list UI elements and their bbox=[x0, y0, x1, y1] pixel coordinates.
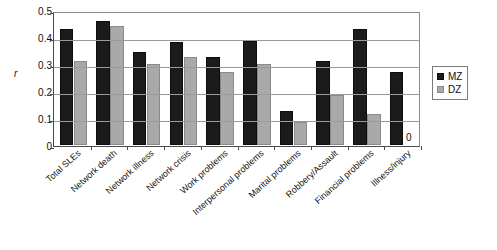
x-tickmark bbox=[421, 146, 422, 150]
bar-mz bbox=[206, 57, 220, 145]
chart-legend: MZDZ bbox=[432, 66, 468, 100]
bar-group bbox=[128, 13, 165, 145]
gridline bbox=[54, 40, 419, 41]
bar-group bbox=[275, 13, 312, 145]
bar-chart: r 0.50.40.30.20.10 0 Total SLEsNetwork d… bbox=[0, 0, 497, 250]
bar-dz bbox=[184, 57, 198, 145]
y-tick-label: 0.2 bbox=[26, 88, 52, 98]
gridline bbox=[54, 67, 419, 68]
bar-mz bbox=[390, 72, 404, 145]
y-tickmark bbox=[50, 40, 54, 41]
bar-mz bbox=[353, 29, 367, 145]
bar-group bbox=[349, 13, 386, 145]
y-tickmark bbox=[50, 13, 54, 14]
bar-dz bbox=[220, 72, 234, 145]
legend-label: DZ bbox=[448, 84, 461, 95]
y-tick-label: 0.4 bbox=[26, 34, 52, 44]
y-tickmark bbox=[50, 121, 54, 122]
bars-layer: 0 bbox=[55, 13, 418, 145]
y-tick-label: 0.1 bbox=[26, 115, 52, 125]
legend-item-mz: MZ bbox=[437, 70, 462, 83]
legend-swatch-icon bbox=[437, 73, 444, 80]
bar-dz bbox=[147, 64, 161, 145]
gridline bbox=[54, 94, 419, 95]
bar-mz bbox=[60, 29, 74, 145]
legend-swatch-icon bbox=[437, 86, 444, 93]
y-axis-label: r bbox=[14, 68, 17, 79]
bar-dz bbox=[110, 26, 124, 145]
legend-item-dz: DZ bbox=[437, 83, 462, 96]
gridline bbox=[54, 121, 419, 122]
y-tick-label: 0.5 bbox=[26, 7, 52, 17]
y-tickmark bbox=[50, 67, 54, 68]
bar-group bbox=[239, 13, 276, 145]
bar-group bbox=[55, 13, 92, 145]
legend-label: MZ bbox=[448, 71, 462, 82]
y-axis-tick-labels: 0.50.40.30.20.10 bbox=[26, 12, 52, 147]
x-axis-tick-labels: Total SLEsNetwork deathNetwork illnessNe… bbox=[53, 148, 420, 248]
bar-mz bbox=[280, 111, 294, 145]
plot-area: 0 bbox=[53, 12, 420, 147]
bar-group bbox=[92, 13, 129, 145]
bar-group: 0 bbox=[385, 13, 422, 145]
bar-dz bbox=[257, 64, 271, 145]
zero-value-annotation: 0 bbox=[406, 132, 412, 143]
bar-dz bbox=[367, 114, 381, 145]
y-tick-label: 0.3 bbox=[26, 61, 52, 71]
y-tick-label: 0 bbox=[26, 142, 52, 152]
bar-group bbox=[312, 13, 349, 145]
bar-group bbox=[202, 13, 239, 145]
bar-dz bbox=[294, 122, 308, 145]
x-tick-label: Interpersonal problems bbox=[191, 148, 266, 217]
y-tickmark bbox=[50, 94, 54, 95]
bar-mz bbox=[133, 52, 147, 145]
bar-group bbox=[165, 13, 202, 145]
bar-mz bbox=[316, 61, 330, 145]
bar-dz bbox=[74, 61, 88, 145]
